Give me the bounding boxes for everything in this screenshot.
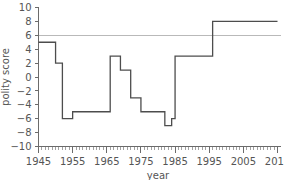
- y-tick-label: −4: [17, 99, 32, 110]
- chart-canvas: −10−8−6−4−20246810 194519551965197519851…: [0, 0, 284, 180]
- y-tick-label: −6: [17, 113, 32, 124]
- y-tick-label: −8: [17, 127, 32, 138]
- polity-score-chart: −10−8−6−4−20246810 194519551965197519851…: [0, 0, 284, 180]
- x-tick-label: 1975: [128, 156, 153, 167]
- x-axis-title: year: [147, 170, 170, 181]
- x-tick-label: 1955: [60, 156, 85, 167]
- x-axis-ticks: 19451955196519751985199520052015: [26, 146, 284, 167]
- x-tick-label: 1995: [196, 156, 221, 167]
- x-tick-label: 1965: [94, 156, 119, 167]
- y-tick-label: 10: [19, 2, 32, 13]
- x-tick-label: 2015: [265, 156, 284, 167]
- axis-lines: [39, 7, 281, 147]
- y-tick-label: 4: [25, 44, 31, 55]
- y-tick-label: 2: [25, 58, 31, 69]
- x-tick-label: 1945: [26, 156, 51, 167]
- y-tick-label: −10: [10, 141, 31, 152]
- x-tick-label: 2005: [231, 156, 256, 167]
- y-tick-label: −2: [17, 86, 32, 97]
- y-tick-label: 6: [25, 30, 31, 41]
- y-tick-label: 8: [25, 16, 31, 27]
- data-series: [39, 21, 278, 125]
- series-line-polity-score: [39, 21, 278, 125]
- y-axis-ticks: −10−8−6−4−20246810: [10, 2, 38, 152]
- y-tick-label: 0: [25, 72, 31, 83]
- y-axis-title: polity score: [0, 48, 11, 106]
- x-tick-label: 1985: [162, 156, 187, 167]
